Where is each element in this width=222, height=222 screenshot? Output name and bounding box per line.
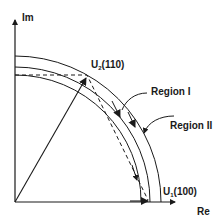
u2-state: (110) bbox=[102, 59, 125, 70]
region1-label: Region I bbox=[151, 87, 190, 97]
region2-label: Region II bbox=[170, 121, 212, 131]
u1-label: U1(100) bbox=[163, 187, 197, 198]
u1-state: (100) bbox=[174, 186, 197, 197]
inner-arc bbox=[15, 75, 141, 202]
u2-label: U2(110) bbox=[91, 60, 124, 71]
im-axis-label: Im bbox=[22, 13, 34, 23]
middle-arc bbox=[15, 67, 150, 202]
re-axis-label: Re bbox=[197, 207, 210, 217]
u2-vector bbox=[15, 78, 86, 202]
